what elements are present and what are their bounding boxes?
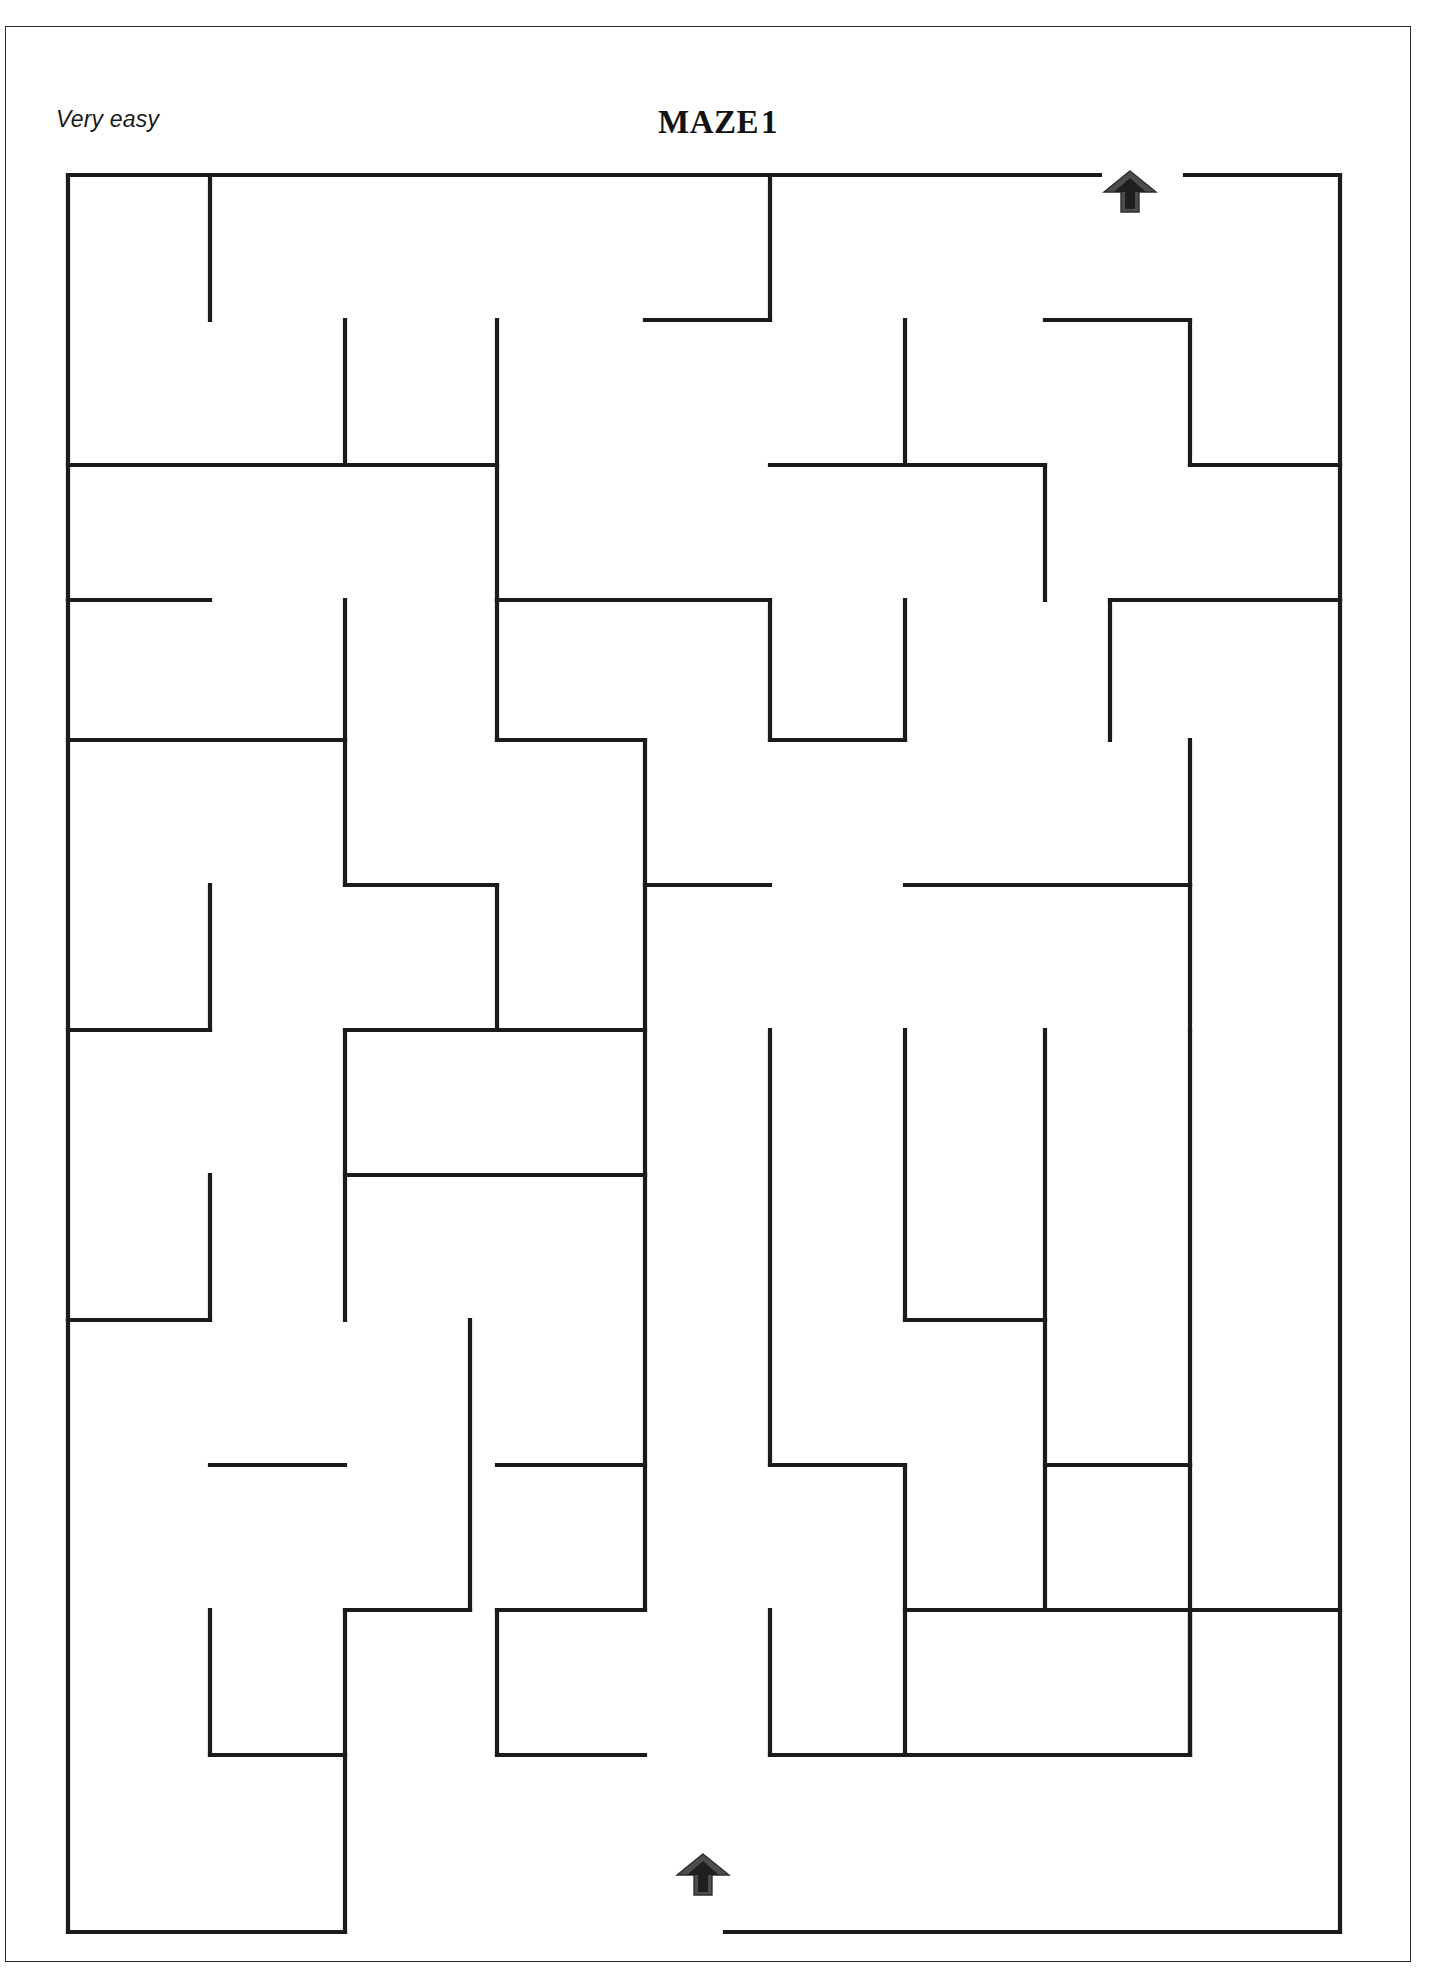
maze-markers bbox=[677, 171, 1156, 1895]
maze-exit-arrow bbox=[677, 1854, 729, 1895]
maze-entrance-arrow bbox=[1104, 171, 1156, 212]
maze-page: Very easy MAZE1 bbox=[0, 0, 1436, 1969]
maze-grid bbox=[0, 0, 1436, 1969]
maze-walls bbox=[68, 175, 1340, 1932]
maze-container bbox=[0, 0, 1436, 1969]
